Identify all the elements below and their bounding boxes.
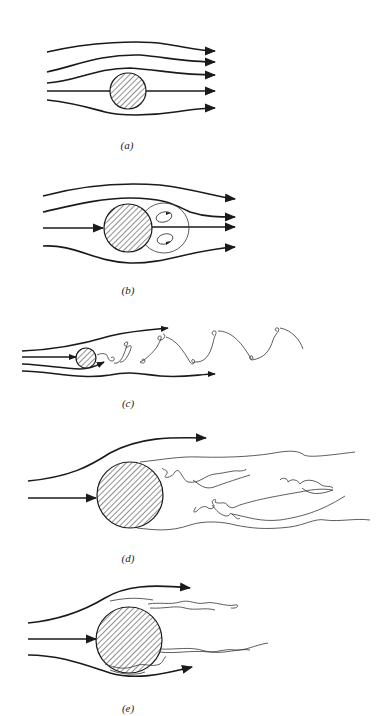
panel-e: (e) <box>28 586 268 715</box>
recirculating-vortex <box>156 232 174 246</box>
cylinder <box>96 607 162 673</box>
cylinder <box>97 462 163 528</box>
panel-label-a: (a) <box>121 139 134 152</box>
flow-regimes-figure: (a) (b) (c) (d) <box>0 0 390 716</box>
recirculating-vortex <box>155 210 173 224</box>
panel-label-e: (e) <box>122 702 135 715</box>
panel-a: (a) <box>47 42 215 152</box>
panel-c: (c) <box>22 328 303 410</box>
panel-d: (d) <box>28 438 370 565</box>
streamline <box>22 328 168 351</box>
streamline <box>43 184 235 199</box>
panel-label-c: (c) <box>122 397 135 410</box>
panel-label-b: (b) <box>122 284 135 297</box>
cylinder <box>104 204 152 252</box>
streamline <box>22 371 215 377</box>
panel-label-d: (d) <box>122 552 135 565</box>
cylinder <box>110 73 146 109</box>
turbulent-wake <box>137 451 370 530</box>
cylinder <box>76 348 96 368</box>
panel-b: (b) <box>43 184 235 297</box>
streamline <box>47 55 215 72</box>
streamline <box>47 42 215 52</box>
